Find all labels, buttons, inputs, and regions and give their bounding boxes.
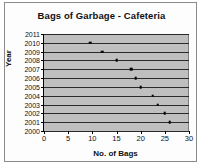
data-point <box>164 112 167 115</box>
x-tick-label: 25 <box>161 135 169 143</box>
chart-title: Bags of Garbage - Cafeteria <box>5 10 198 21</box>
y-tick <box>41 87 44 88</box>
data-point <box>89 42 92 45</box>
gridline <box>44 105 189 106</box>
x-tick-label: 15 <box>112 135 120 143</box>
y-tick-label: 2002 <box>24 110 40 117</box>
y-tick-label: 2001 <box>24 119 40 126</box>
gridline <box>44 87 189 88</box>
y-tick-label: 2010 <box>24 39 40 46</box>
y-tick-label: 2006 <box>24 75 40 82</box>
y-tick <box>41 122 44 123</box>
y-tick-label: 2008 <box>24 57 40 64</box>
gridline <box>44 113 189 114</box>
y-tick-label: 2003 <box>24 101 40 108</box>
y-tick-label: 2007 <box>24 66 40 73</box>
plot-right-edge <box>188 34 189 131</box>
data-point <box>156 103 159 106</box>
x-tick-label: 10 <box>88 135 96 143</box>
plot-area: 2011201020092008200720062005200420032002… <box>43 34 189 132</box>
x-tick-label: 5 <box>66 135 70 143</box>
gridline <box>44 69 189 70</box>
data-point <box>130 68 133 71</box>
y-axis-title: Year <box>4 50 13 67</box>
y-tick <box>41 96 44 97</box>
y-tick-label: 2000 <box>24 128 40 135</box>
gridline <box>44 122 189 123</box>
data-point <box>139 86 142 89</box>
y-tick-label: 2004 <box>24 92 40 99</box>
x-axis-title: No. of Bags <box>43 149 188 158</box>
x-tick-label: 0 <box>42 135 46 143</box>
y-tick <box>41 43 44 44</box>
y-tick-label: 2009 <box>24 48 40 55</box>
data-point <box>101 50 104 53</box>
y-tick <box>41 78 44 79</box>
y-tick <box>41 105 44 106</box>
gridline <box>44 52 189 53</box>
chart-frame: Bags of Garbage - Cafeteria 201120102009… <box>4 2 197 162</box>
y-tick-label: 2011 <box>25 31 40 38</box>
gridline <box>44 78 189 79</box>
data-point <box>115 59 118 62</box>
gridline <box>44 43 189 44</box>
gridline <box>44 96 189 97</box>
y-tick-label: 2005 <box>24 83 40 90</box>
x-tick-label: 30 <box>185 135 193 143</box>
x-tick-label: 20 <box>136 135 144 143</box>
y-tick <box>41 34 44 35</box>
data-point <box>135 77 138 80</box>
data-point <box>151 94 154 97</box>
y-tick <box>41 60 44 61</box>
gridline <box>44 34 189 35</box>
y-tick <box>41 52 44 53</box>
y-tick <box>41 113 44 114</box>
y-tick <box>41 69 44 70</box>
data-point <box>168 121 171 124</box>
